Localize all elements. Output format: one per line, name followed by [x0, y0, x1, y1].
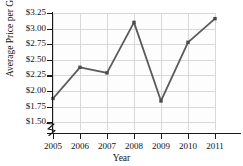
- x-axis-tick: [161, 133, 162, 139]
- gridline-vertical: [215, 13, 216, 130]
- data-series-line: [53, 13, 215, 130]
- y-axis-tick: [47, 75, 53, 76]
- x-axis-title: Year: [0, 153, 243, 163]
- y-axis-tick-label: $3.25: [12, 7, 46, 17]
- y-axis-tick: [47, 91, 53, 92]
- x-axis-tick-label: 2010: [173, 141, 203, 151]
- y-axis-tick: [47, 29, 53, 30]
- data-point-marker: [186, 41, 189, 44]
- data-point-marker: [78, 66, 81, 69]
- x-axis-tick: [134, 133, 135, 139]
- y-axis-tick: [47, 13, 53, 14]
- line-chart: Price in the United States Average Price…: [0, 0, 243, 166]
- y-axis-tick-label: $1.75: [12, 101, 46, 111]
- x-axis-tick-label: 2007: [92, 141, 122, 151]
- x-axis-tick-label: 2006: [65, 141, 95, 151]
- y-axis-tick: [47, 107, 53, 108]
- data-point-marker: [213, 17, 216, 20]
- data-point-marker: [132, 21, 135, 24]
- x-axis-tick-label: 2005: [38, 141, 68, 151]
- x-axis-tick-label: 2008: [119, 141, 149, 151]
- data-point-marker: [105, 71, 108, 74]
- x-axis-tick: [107, 133, 108, 139]
- y-axis-tick: [47, 60, 53, 61]
- x-axis-tick-label: 2009: [146, 141, 176, 151]
- y-axis-tick-label: $2.50: [12, 54, 46, 64]
- plot-area: [53, 13, 215, 130]
- data-point-marker: [159, 99, 162, 102]
- x-axis-tick-label: 2011: [200, 141, 230, 151]
- y-axis-tick-label: $2.75: [12, 38, 46, 48]
- y-axis-tick-label: $2.00: [12, 85, 46, 95]
- x-axis-tick: [188, 133, 189, 139]
- x-axis-tick: [80, 133, 81, 139]
- x-axis-tick: [53, 133, 54, 139]
- x-axis-tick: [215, 133, 216, 139]
- y-axis-tick-label: $3.00: [12, 23, 46, 33]
- series-line: [53, 19, 215, 101]
- y-axis-tick-label: $1.50: [12, 116, 46, 126]
- y-axis-tick-label: $2.25: [12, 69, 46, 79]
- y-axis-tick: [47, 44, 53, 45]
- x-axis-line: [47, 133, 241, 134]
- y-axis-line: [52, 12, 53, 133]
- y-axis-tick: [47, 122, 53, 123]
- chart-title: Price in the United States: [0, 0, 243, 1]
